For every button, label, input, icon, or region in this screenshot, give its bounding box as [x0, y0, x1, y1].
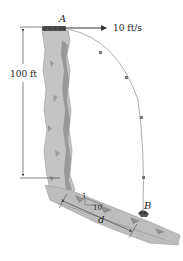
label-distance: d [98, 214, 104, 225]
label-height: 100 ft [10, 69, 37, 79]
label-velocity: 10 ft/s [113, 23, 142, 33]
label-slope-run: 10 [93, 204, 102, 212]
label-slope-rise: 1 [82, 192, 86, 200]
trajectory-curve [68, 29, 143, 210]
label-point-b: B [143, 200, 151, 211]
projectile-diagram: A 10 ft/s 100 ft 1 10 d B [0, 0, 183, 261]
slope-rock [45, 185, 180, 245]
label-point-a: A [58, 13, 66, 24]
projectile-block-b [138, 210, 149, 217]
cliff-rock [42, 30, 75, 198]
trajectory-markers [99, 51, 145, 179]
projectile-block-a [42, 26, 66, 31]
